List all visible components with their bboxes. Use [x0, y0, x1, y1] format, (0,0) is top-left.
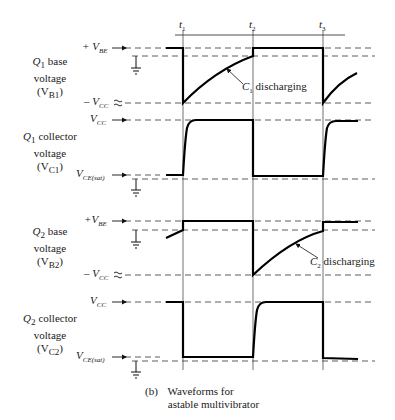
- waveform-vc1: [166, 120, 358, 176]
- level-label-vc2-vcc: VCC: [90, 294, 106, 309]
- annotation-c2-discharging: C2 discharging: [310, 255, 375, 270]
- level-label-vb2-vbe: +VBE: [84, 213, 107, 228]
- panel-title-vb1: Q1 base voltage (VB1): [5, 55, 95, 102]
- panel-title-vb2: Q2 base voltage (VB2): [5, 225, 95, 272]
- level-label-vc1-vcc: VCC: [90, 112, 106, 127]
- ground-icon: [131, 56, 141, 378]
- approx-symbols: [114, 100, 122, 278]
- figure-caption: (b) Waveforms for astable multivibrator: [145, 385, 259, 411]
- time-label-t2: t2: [249, 18, 256, 33]
- level-label-vb1-vbe: + VBE: [82, 40, 107, 55]
- level-arrows: [112, 48, 126, 357]
- waveform-vc2: [166, 302, 358, 359]
- time-label-t3: t3: [319, 18, 326, 33]
- level-label-vc2-vcesat: VCE(sat): [76, 349, 105, 364]
- annotation-c1-discharging: C1 discharging: [242, 80, 307, 95]
- level-label-vb1-vcc: – VCC: [84, 95, 108, 110]
- level-label-vb2-vcc: – VCC: [84, 267, 108, 282]
- level-label-vc1-vcesat: VCE(sat): [76, 167, 105, 182]
- time-label-t1: t1: [179, 18, 186, 33]
